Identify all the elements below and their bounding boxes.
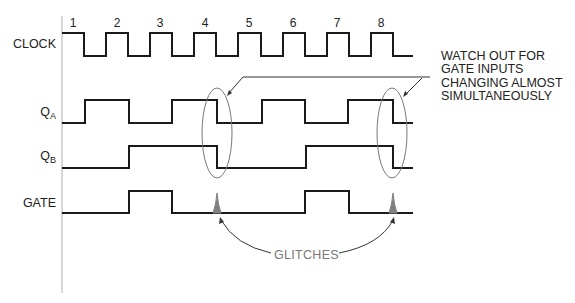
arrowhead-2: [403, 91, 408, 97]
glitch-spike-2: [389, 193, 397, 213]
warning-leader-line: [228, 77, 430, 94]
clock-waveform: [62, 33, 413, 56]
cycle-number-7: 7: [334, 17, 341, 29]
signal-label-qb: QB: [0, 149, 56, 167]
signal-label-qb-subscript: B: [50, 155, 56, 165]
signal-label-qa-text: Q: [40, 105, 50, 119]
cycle-number-3: 3: [157, 17, 164, 29]
warning-annotation: WATCH OUT FOR GATE INPUTS CHANGING ALMOS…: [441, 50, 563, 104]
cycle-number-6: 6: [290, 17, 297, 29]
gate-waveform: [62, 191, 413, 213]
signal-label-qa-subscript: A: [50, 111, 56, 121]
signal-label-clock: CLOCK: [0, 37, 56, 51]
glitches-annotation: GLITCHES: [274, 248, 339, 262]
cycle-number-2: 2: [114, 17, 121, 29]
glitch-leader-left: [221, 220, 271, 253]
qb-waveform: [62, 146, 413, 168]
cycle-number-8: 8: [378, 17, 385, 29]
signal-label-qa: QA: [0, 105, 56, 123]
signal-label-gate-text: GATE: [23, 196, 56, 210]
cycle-number-1: 1: [70, 17, 77, 29]
signal-label-gate: GATE: [0, 196, 56, 210]
cycle-number-5: 5: [246, 17, 253, 29]
glitch-spike-1: [213, 193, 221, 213]
qa-waveform: [62, 100, 413, 123]
cycle-number-4: 4: [202, 17, 209, 29]
signal-label-clock-text: CLOCK: [13, 37, 56, 51]
glitch-leader-right: [339, 220, 393, 253]
signal-label-qb-text: Q: [40, 149, 50, 163]
